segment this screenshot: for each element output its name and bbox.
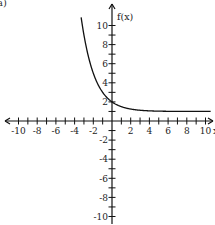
- x-axis-label: x: [213, 125, 215, 136]
- function-graph: a) -10-8-6-4-2246810 -10-8-6-4-2246810 f…: [0, 0, 215, 225]
- x-tick-label: -6: [52, 126, 61, 136]
- y-tick-label: 8: [102, 40, 108, 50]
- y-tick-label: 10: [97, 21, 109, 31]
- y-tick-label: -8: [99, 193, 108, 203]
- x-tick-label: 2: [128, 126, 134, 136]
- x-tick-label: -4: [70, 126, 79, 136]
- x-tick-label: 4: [147, 126, 153, 136]
- x-tick-label: 10: [200, 126, 212, 136]
- axes: [5, 4, 213, 224]
- y-tick-label: -2: [99, 135, 108, 145]
- x-tick-label: 6: [165, 126, 171, 136]
- x-tick-label: -10: [11, 126, 26, 136]
- y-tick-label: -4: [99, 154, 108, 164]
- y-tick-label: -10: [94, 212, 109, 222]
- y-tick-label: 6: [102, 59, 108, 69]
- x-tick-label: -8: [33, 126, 42, 136]
- y-tick-label: 4: [102, 78, 108, 88]
- function-curve: [81, 17, 210, 111]
- x-tick-label: -2: [89, 126, 98, 136]
- y-tick-label: -6: [99, 174, 108, 184]
- x-tick-label: 8: [184, 126, 190, 136]
- y-axis-label: f(x): [117, 11, 133, 22]
- problem-label: a): [0, 0, 7, 8]
